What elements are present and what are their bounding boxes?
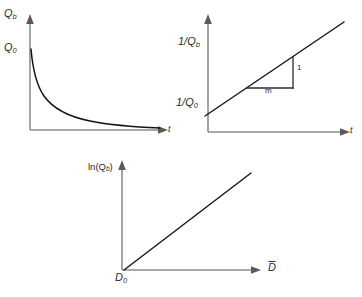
decay-intercept-label: Q0 bbox=[4, 42, 17, 54]
decay-y-axis-label: Qb bbox=[4, 8, 17, 20]
slope-rise-label: 1 bbox=[297, 64, 301, 72]
log-intercept-label: D0 bbox=[115, 272, 127, 284]
figure-container: Qb Q0 t 1/Qb 1/Q0 m 1 t ln(Qb) D0 D bbox=[0, 0, 362, 297]
reciprocal-x-axis-label: t bbox=[350, 126, 353, 135]
log-x-axis-label: D bbox=[268, 262, 276, 273]
reciprocal-intercept-label: 1/Q0 bbox=[176, 97, 198, 109]
slope-run-label: m bbox=[265, 87, 272, 95]
reciprocal-y-axis-label: 1/Qb bbox=[178, 36, 200, 48]
reciprocal-line-path bbox=[205, 22, 344, 116]
panel-decay-curve bbox=[0, 0, 181, 148]
panel-reciprocal-line bbox=[176, 0, 362, 148]
log-y-axis-label: ln(Qb) bbox=[88, 162, 113, 173]
reciprocal-x-axis-arrowhead bbox=[340, 128, 350, 136]
log-line-path bbox=[124, 173, 251, 270]
log-x-axis-arrowhead bbox=[251, 266, 261, 274]
decay-plot-svg bbox=[0, 0, 181, 148]
reciprocal-y-axis-arrowhead bbox=[204, 14, 212, 24]
panel-log-dose-line bbox=[88, 148, 362, 297]
log-y-axis-arrowhead bbox=[118, 160, 126, 170]
decay-y-axis-arrowhead bbox=[26, 14, 34, 24]
decay-curve-path bbox=[31, 49, 160, 128]
log-plot-svg bbox=[88, 148, 362, 297]
decay-x-axis-label: t bbox=[168, 125, 171, 134]
reciprocal-plot-svg bbox=[176, 0, 362, 148]
overbar-icon bbox=[268, 260, 278, 263]
